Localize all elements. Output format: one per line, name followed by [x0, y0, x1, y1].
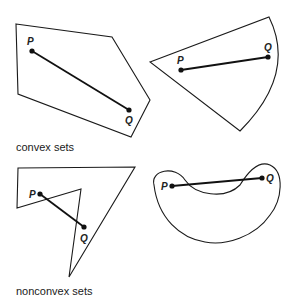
point-p [178, 67, 183, 72]
point-q [265, 54, 270, 59]
label-q: Q [80, 233, 88, 244]
label-q: Q [125, 115, 133, 126]
nonconvex-bean-figure: P Q [154, 164, 281, 243]
label-q: Q [266, 173, 274, 184]
point-q [259, 175, 264, 180]
point-q [81, 224, 86, 229]
label-p: P [161, 181, 168, 192]
point-q [126, 107, 131, 112]
convex-sector-figure: P Q [150, 17, 278, 131]
point-p [29, 48, 34, 53]
convex-pentagon-figure: P Q [16, 24, 150, 137]
segment-pq [181, 57, 268, 70]
nonconvex-polygon-figure: P Q [17, 167, 135, 277]
point-p [37, 191, 42, 196]
label-p: P [27, 36, 34, 47]
sector-outline [150, 17, 278, 131]
segment-pq [172, 178, 262, 186]
label-p: P [29, 189, 36, 200]
label-q: Q [264, 42, 272, 53]
caption-convex-sets: convex sets [16, 141, 74, 153]
segment-pq [40, 194, 84, 227]
label-p: P [177, 55, 184, 66]
point-p [169, 183, 174, 188]
caption-nonconvex-sets: nonconvex sets [16, 285, 92, 297]
segment-pq [32, 51, 129, 110]
